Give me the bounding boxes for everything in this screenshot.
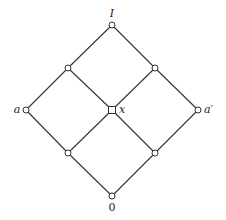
node-upper-right bbox=[152, 65, 158, 71]
nodes bbox=[23, 22, 201, 199]
edge-I-ur bbox=[112, 25, 155, 68]
label-x: x bbox=[119, 103, 126, 116]
edge-ul-a bbox=[26, 68, 68, 110]
node-lower-right bbox=[152, 150, 158, 156]
lattice-diagram: I a x a′ 0 bbox=[0, 0, 226, 220]
node-lower-left bbox=[65, 150, 71, 156]
label-a-prime: a′ bbox=[204, 103, 214, 116]
edge-ul-x bbox=[68, 68, 112, 110]
edge-ll-zero bbox=[68, 153, 112, 196]
node-a-prime bbox=[195, 107, 201, 113]
label-a: a bbox=[14, 103, 21, 116]
label-I: I bbox=[109, 7, 115, 20]
node-upper-left bbox=[65, 65, 71, 71]
edge-ur-a-prime bbox=[155, 68, 198, 110]
edge-x-lr bbox=[112, 110, 155, 153]
edge-x-ll bbox=[68, 110, 112, 153]
label-zero: 0 bbox=[109, 201, 116, 214]
edge-lr-zero bbox=[112, 153, 155, 196]
edge-a-prime-lr bbox=[155, 110, 198, 153]
node-x bbox=[109, 107, 116, 114]
node-a bbox=[23, 107, 29, 113]
node-I bbox=[109, 22, 115, 28]
node-zero bbox=[109, 193, 115, 199]
edge-I-ul bbox=[68, 25, 112, 68]
edge-a-ll bbox=[26, 110, 68, 153]
